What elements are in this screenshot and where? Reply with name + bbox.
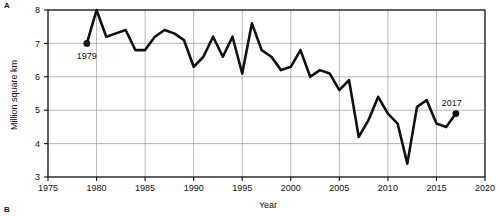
x-axis-title: Year [259,200,277,210]
line-chart-svg: 1975198019851990199520002005201020152020… [0,0,500,216]
y-tick-label: 5 [35,105,40,115]
y-tick-label: 7 [35,39,40,49]
x-tick-label: 2010 [378,183,398,193]
x-tick-label: 1995 [232,183,252,193]
x-tick-label: 2005 [329,183,349,193]
x-tick-label: 1975 [38,183,58,193]
y-tick-label: 6 [35,72,40,82]
y-tick-label: 3 [35,172,40,182]
series-polyline [87,10,456,164]
x-tick-label: 1985 [135,183,155,193]
x-tick-label: 2020 [475,183,495,193]
x-tick-label: 1980 [87,183,107,193]
data-point-marker [83,40,90,47]
x-tick-label: 2000 [281,183,301,193]
x-tick-label: 1990 [184,183,204,193]
x-tick-label: 2015 [426,183,446,193]
annotations-group: 19792017 [77,40,462,117]
panel-label-a: A [4,1,10,10]
data-series-line [87,10,456,164]
y-tick-label: 4 [35,139,40,149]
x-tick-labels-group: 1975198019851990199520002005201020152020 [38,183,495,193]
annotation-label: 2017 [442,98,462,108]
sea-ice-extent-chart-panel: A B 197519801985199019952000200520102015… [0,0,500,216]
data-point-marker [452,110,459,117]
panel-label-b: B [4,205,10,214]
y-tick-labels-group: 345678 [35,5,40,182]
y-axis-title: Million square km [9,60,19,130]
y-tick-label: 8 [35,5,40,15]
annotation-label: 1979 [77,51,97,61]
